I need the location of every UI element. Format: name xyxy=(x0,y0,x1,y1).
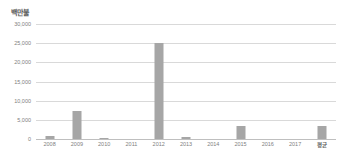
x-axis-tick: 평균 xyxy=(317,141,327,149)
bar-slot xyxy=(227,24,254,139)
x-axis-tick: 2011 xyxy=(126,141,138,147)
bar[interactable] xyxy=(181,137,190,139)
bar-slot xyxy=(63,24,90,139)
y-axis-tick: 30,000 xyxy=(14,21,31,27)
bar-slot xyxy=(200,24,227,139)
bar[interactable] xyxy=(236,126,245,139)
x-axis-tick: 2012 xyxy=(153,141,165,147)
x-axis-tick: 2014 xyxy=(207,141,219,147)
bar-slot xyxy=(91,24,118,139)
x-axis-tick: 2010 xyxy=(98,141,110,147)
axis-baseline xyxy=(36,139,336,140)
x-axis-tick: 2009 xyxy=(71,141,83,147)
bar-slot xyxy=(145,24,172,139)
bar-chart: 백만불 05,00010,00015,00020,00025,00030,000… xyxy=(0,0,344,165)
bar[interactable] xyxy=(45,136,54,139)
x-axis-tick: 2008 xyxy=(44,141,56,147)
x-axis-tick: 2016 xyxy=(262,141,274,147)
bar-slot xyxy=(281,24,308,139)
y-axis-tick: 25,000 xyxy=(14,40,31,46)
x-axis-tick: 2017 xyxy=(289,141,301,147)
x-axis-tick-labels: 2008200920102011201220132014201520162017… xyxy=(36,141,336,155)
y-axis-unit-label: 백만불 xyxy=(11,7,29,17)
bar-slot xyxy=(309,24,336,139)
bar-slot xyxy=(254,24,281,139)
bar[interactable] xyxy=(100,138,109,139)
bar-slot xyxy=(36,24,63,139)
y-axis-tick: 10,000 xyxy=(14,98,31,104)
y-axis-tick: 5,000 xyxy=(17,117,31,123)
bar-slot xyxy=(172,24,199,139)
bars-layer xyxy=(36,24,336,139)
bar[interactable] xyxy=(318,126,327,139)
y-axis-tick: 20,000 xyxy=(14,59,31,65)
y-axis-tick: 15,000 xyxy=(14,79,31,85)
bar-slot xyxy=(118,24,145,139)
y-axis-tick-labels: 05,00010,00015,00020,00025,00030,000 xyxy=(0,24,33,139)
x-axis-tick: 2013 xyxy=(180,141,192,147)
x-axis-tick: 2015 xyxy=(234,141,246,147)
bar[interactable] xyxy=(154,43,163,139)
y-axis-tick: 0 xyxy=(28,136,31,142)
bar[interactable] xyxy=(72,111,81,139)
